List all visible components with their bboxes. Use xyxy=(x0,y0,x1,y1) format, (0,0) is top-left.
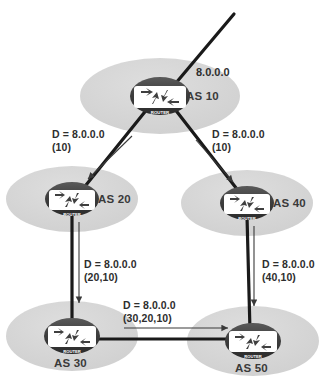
as-label-as30: AS 30 xyxy=(54,357,87,369)
annotation-as10-to-as20: D = 8.0.0.0 (10) xyxy=(52,128,105,154)
as-label-as40: AS 40 xyxy=(273,197,306,209)
annotation-as40-to-as50-line1: D = 8.0.0.0 xyxy=(262,258,315,270)
annotation-as20-to-as30: D = 8.0.0.0 (20,10) xyxy=(84,258,137,284)
diagram-graphics: ROUTER ROUTER ROUTER ROUTER ROUTER xyxy=(0,0,331,387)
annotation-as30-to-as50-line2: (30,20,10) xyxy=(123,312,176,325)
annotation-as10-to-as20-line1: D = 8.0.0.0 xyxy=(52,128,105,140)
annotation-as40-to-as50: D = 8.0.0.0 (40,10) xyxy=(262,258,315,284)
router-caption-as30: ROUTER xyxy=(63,349,81,354)
router-caption-as10: ROUTER xyxy=(151,110,170,115)
annotation-as30-to-as50: D = 8.0.0.0 (30,20,10) xyxy=(123,299,176,325)
annotation-as10-to-as40: D = 8.0.0.0 (10) xyxy=(212,128,265,154)
annotation-as20-to-as30-line2: (20,10) xyxy=(84,271,137,284)
router-caption-as40: ROUTER xyxy=(238,216,256,221)
router-caption-as20: ROUTER xyxy=(63,212,81,217)
annotation-as30-to-as50-line1: D = 8.0.0.0 xyxy=(123,299,176,311)
annotation-as10-to-as40-line2: (10) xyxy=(212,141,265,154)
origin-network-label: 8.0.0.0 xyxy=(196,66,230,78)
router-icon-as10: ROUTER xyxy=(130,77,190,115)
annotation-as40-to-as50-line2: (40,10) xyxy=(262,271,315,284)
network-diagram-canvas: ROUTER ROUTER ROUTER ROUTER ROUTER xyxy=(0,0,331,387)
router-icon-as50: ROUTER xyxy=(225,323,281,359)
annotation-as20-to-as30-line1: D = 8.0.0.0 xyxy=(84,258,137,270)
as-label-as50: AS 50 xyxy=(235,362,268,374)
as-label-as10: AS 10 xyxy=(186,90,219,102)
annotation-as10-to-as40-line1: D = 8.0.0.0 xyxy=(212,128,265,140)
annotation-as10-to-as20-line2: (10) xyxy=(52,141,105,154)
router-caption-as50: ROUTER xyxy=(244,354,262,359)
as-label-as20: AS 20 xyxy=(98,193,131,205)
router-icon-as30: ROUTER xyxy=(44,318,100,354)
